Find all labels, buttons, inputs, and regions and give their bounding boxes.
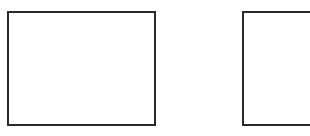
empty-rectangle-right xyxy=(242,11,310,126)
empty-rectangle-left xyxy=(7,11,156,126)
